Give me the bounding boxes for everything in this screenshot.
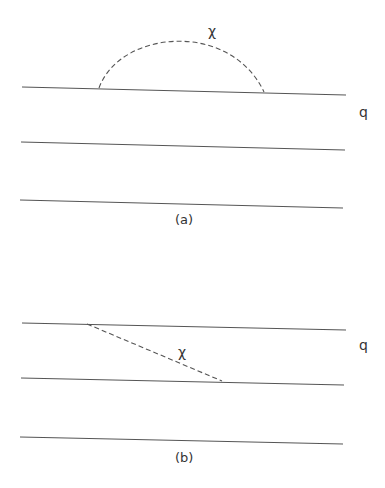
quark-line-bottom bbox=[20, 437, 343, 444]
quark-line-top bbox=[22, 87, 346, 95]
chi-label: χ bbox=[208, 23, 216, 39]
chi-propagator-arc bbox=[99, 41, 264, 92]
feynman-diagrams: χ q (a) χ q (b) bbox=[0, 0, 385, 488]
caption: (b) bbox=[175, 450, 193, 465]
diagram-a: χ q (a) bbox=[20, 23, 368, 227]
diagram-b: χ q (b) bbox=[20, 323, 368, 465]
chi-propagator bbox=[87, 324, 222, 381]
q-label: q bbox=[359, 337, 368, 353]
chi-label: χ bbox=[178, 344, 186, 360]
quark-line-middle bbox=[21, 142, 345, 150]
quark-line-middle bbox=[21, 378, 344, 385]
caption: (a) bbox=[175, 212, 193, 227]
quark-line-bottom bbox=[20, 200, 343, 208]
quark-line-top bbox=[22, 323, 346, 330]
q-label: q bbox=[359, 104, 368, 120]
